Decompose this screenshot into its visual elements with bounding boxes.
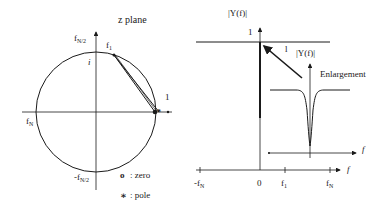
inset-axis-start: [268, 152, 270, 154]
inset-title: Enlargement: [320, 69, 366, 79]
tick-label-zero: 0: [257, 178, 262, 188]
pole-marker: *: [157, 108, 161, 117]
inset-y-label: |Y(f)|: [296, 48, 315, 58]
response-plot: |Y(f)| 1 l f -fN 0 f1 fN |Y(f)| Enlargem…: [194, 8, 366, 189]
fn2-label: fN/2: [74, 33, 86, 44]
axis-end-dot: [167, 111, 169, 113]
enlargement-inset: |Y(f)| Enlargement f: [268, 48, 366, 158]
one-level-label: 1: [248, 27, 253, 37]
zero-legend-text: : zero: [130, 170, 151, 180]
fn-left-label: fN: [26, 116, 34, 127]
z-plane-title: z plane: [118, 14, 147, 25]
tick-label-neg-fn: -fN: [194, 178, 205, 189]
vector-shadow: [116, 56, 157, 112]
imag-unit-label: i: [88, 57, 91, 67]
pole-symbol: ∗: [120, 190, 127, 201]
x-axis-label: f: [347, 164, 351, 174]
pole-legend-text: : pole: [130, 190, 150, 200]
inset-x-label: f: [362, 144, 366, 154]
diagram-canvas: z plane fN/2 i f1 1 fN -fN/2 * o : zero …: [0, 0, 392, 210]
neg-fn2-label: -fN/2: [74, 172, 89, 183]
real-one-label: 1: [165, 92, 170, 102]
y-axis-label: |Y(f)|: [228, 8, 247, 18]
tick-label-f1: f1: [281, 178, 287, 189]
tick-label-fn: fN: [326, 178, 334, 189]
notch-filter-diagram: z plane fN/2 i f1 1 fN -fN/2 * o : zero …: [0, 0, 392, 210]
z-plane: z plane fN/2 i f1 1 fN -fN/2 * o : zero …: [22, 14, 172, 201]
legend: o : zero ∗ : pole: [120, 170, 151, 201]
zero-symbol: o: [120, 170, 125, 180]
unity-line-label: l: [285, 44, 288, 54]
f1-point-label: f1: [106, 40, 112, 51]
